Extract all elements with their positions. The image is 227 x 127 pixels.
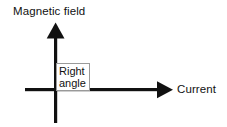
magnetic-field-axis-label: Magnetic field	[13, 5, 85, 18]
physics-diagram: Magnetic field Current Right angle	[0, 0, 227, 127]
right-angle-label-line1: Right	[59, 65, 85, 78]
right-angle-label-line2: angle	[59, 77, 86, 90]
current-axis-label: Current	[177, 83, 216, 96]
up-arrow-icon	[47, 23, 65, 39]
right-arrow-icon	[157, 81, 173, 98]
current-axis-line	[25, 88, 163, 91]
right-angle-annotation-box: Right angle	[56, 63, 90, 91]
axes-group	[0, 0, 227, 127]
